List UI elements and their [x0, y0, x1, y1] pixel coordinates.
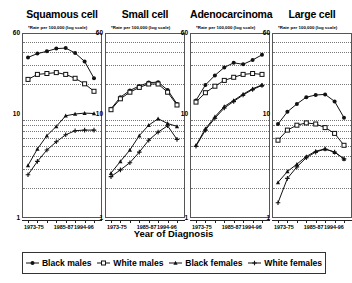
- x-tick-mark: [325, 220, 326, 223]
- chart-panel-small-cell: Small cell*Rate per 100,000 (log scale)1…: [105, 0, 185, 232]
- x-tick-mark: [215, 220, 216, 223]
- y-tick-label: 1: [89, 214, 103, 221]
- y-tick-label: 1: [256, 214, 270, 221]
- x-tick-mark: [37, 220, 38, 223]
- y-tick-label: 10: [174, 110, 188, 117]
- x-tick-mark: [243, 220, 244, 223]
- x-tick-mark: [253, 220, 254, 223]
- x-tick-mark: [111, 220, 112, 223]
- x-tick-mark: [66, 220, 67, 223]
- legend-label: Black females: [185, 258, 242, 268]
- x-tick-mark: [120, 220, 121, 223]
- y-tick-label: 10: [6, 110, 20, 117]
- x-tick-mark: [149, 220, 150, 223]
- legend-item-white-females: White females: [248, 258, 322, 268]
- legend-label: Black males: [42, 258, 92, 268]
- x-axis-title: Year of Diagnosis: [0, 228, 347, 239]
- y-tick-label: 60: [256, 29, 270, 36]
- x-tick-mark: [297, 220, 298, 223]
- y-tick-label: 10: [256, 110, 270, 117]
- legend-marker-filled-circle: [26, 258, 39, 268]
- x-tick-mark: [168, 220, 169, 223]
- series-layer: [272, 0, 352, 224]
- x-tick-mark: [344, 220, 345, 223]
- x-tick-mark: [196, 220, 197, 223]
- x-tick-mark: [56, 220, 57, 223]
- x-tick-mark: [139, 220, 140, 223]
- x-tick-mark: [28, 220, 29, 223]
- y-tick-label: 60: [89, 29, 103, 36]
- x-tick-mark: [75, 220, 76, 223]
- chart-panel-large-cell: Large cell*Rate per 100,000 (log scale)1…: [272, 0, 352, 232]
- x-tick-mark: [278, 220, 279, 223]
- x-tick-mark: [158, 220, 159, 223]
- legend-marker-filled-triangle: [169, 258, 182, 268]
- y-tick-label: 1: [6, 214, 20, 221]
- x-tick-mark: [306, 220, 307, 223]
- x-tick-mark: [224, 220, 225, 223]
- y-tick-label: 1: [174, 214, 188, 221]
- legend-marker-plus: [248, 258, 261, 268]
- x-tick-mark: [85, 220, 86, 223]
- x-tick-mark: [234, 220, 235, 223]
- series-layer: [105, 0, 185, 224]
- legend-item-black-females: Black females: [169, 258, 242, 268]
- x-tick-mark: [47, 220, 48, 223]
- legend-marker-open-square: [97, 258, 110, 268]
- x-axis-line: [272, 220, 352, 221]
- legend-label: White males: [113, 258, 163, 268]
- x-tick-mark: [205, 220, 206, 223]
- x-tick-mark: [287, 220, 288, 223]
- x-axis-line: [105, 220, 185, 221]
- legend-item-black-males: Black males: [26, 258, 92, 268]
- chart-legend: Black males White males Black females Wh…: [22, 252, 326, 274]
- x-tick-mark: [335, 220, 336, 223]
- y-tick-label: 60: [174, 29, 188, 36]
- legend-label: White females: [264, 258, 322, 268]
- y-tick-label: 10: [89, 110, 103, 117]
- legend-item-white-males: White males: [97, 258, 163, 268]
- y-tick-label: 60: [6, 29, 20, 36]
- x-tick-mark: [130, 220, 131, 223]
- x-tick-mark: [316, 220, 317, 223]
